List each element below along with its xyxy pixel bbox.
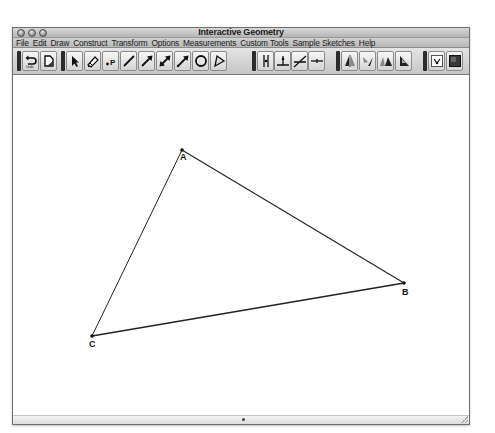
midpoint-icon — [310, 54, 324, 68]
bisector-tool[interactable] — [291, 51, 308, 71]
undo-icon: Undo — [24, 54, 38, 68]
fill-icon — [448, 54, 462, 68]
segment-ab[interactable] — [182, 150, 404, 283]
point-label-c[interactable]: C — [89, 339, 96, 349]
translate-icon — [379, 54, 393, 68]
toolbar: Undo P — [13, 48, 469, 75]
translate-tool[interactable] — [377, 51, 394, 71]
segment-icon — [122, 54, 136, 68]
menu-bar: File Edit Draw Construct Transform Optio… — [13, 38, 469, 48]
fill-tool[interactable] — [446, 51, 463, 71]
label-tool[interactable] — [428, 51, 445, 71]
vector-tool[interactable] — [174, 51, 191, 71]
svg-text:Undo: Undo — [26, 65, 34, 69]
perpendicular-tool[interactable] — [274, 51, 291, 71]
menu-options[interactable]: Options — [152, 38, 180, 48]
title-bar[interactable]: Interactive Geometry — [13, 28, 469, 38]
line-icon — [158, 54, 172, 68]
polygon-icon — [212, 54, 226, 68]
parallel-icon — [259, 54, 273, 68]
dilate-tool[interactable] — [395, 51, 412, 71]
select-tool[interactable] — [66, 51, 83, 71]
menu-edit[interactable]: Edit — [33, 38, 47, 48]
point-label-a[interactable]: A — [180, 152, 187, 162]
ray-tool[interactable] — [138, 51, 155, 71]
window-title: Interactive Geometry — [13, 27, 469, 37]
menu-help[interactable]: Help — [359, 38, 375, 48]
vector-icon — [176, 54, 190, 68]
segment-bc[interactable] — [92, 283, 404, 336]
point-icon: P — [104, 54, 118, 68]
eraser-tool[interactable] — [84, 51, 101, 71]
svg-text:P: P — [110, 58, 116, 67]
ray-icon — [140, 54, 154, 68]
menu-draw[interactable]: Draw — [50, 38, 69, 48]
perpendicular-icon — [276, 54, 290, 68]
midpoint-tool[interactable] — [308, 51, 325, 71]
parallel-tool[interactable] — [257, 51, 274, 71]
toolbar-group-handle[interactable] — [423, 51, 427, 71]
point-tool[interactable]: P — [102, 51, 119, 71]
segment-ca[interactable] — [92, 150, 182, 336]
status-indicator — [242, 418, 245, 421]
pencil-eraser-icon — [86, 54, 100, 68]
menu-transform[interactable]: Transform — [111, 38, 147, 48]
point-label-b[interactable]: B — [402, 287, 409, 297]
point-b[interactable] — [402, 281, 406, 285]
document-icon — [42, 54, 56, 68]
bisector-icon — [293, 54, 307, 68]
redo-button[interactable] — [40, 51, 57, 71]
toolbar-group-handle[interactable] — [61, 51, 65, 71]
toolbar-group-handle[interactable] — [252, 51, 256, 71]
reflect-icon — [343, 54, 357, 68]
reflect-tool[interactable] — [341, 51, 358, 71]
dilate-icon — [397, 54, 411, 68]
rotate-tool[interactable] — [359, 51, 376, 71]
polygon-tool[interactable] — [210, 51, 227, 71]
menu-sample-sketches[interactable]: Sample Sketches — [293, 38, 355, 48]
line-tool[interactable] — [156, 51, 173, 71]
app-window: Interactive Geometry File Edit Draw Cons… — [12, 27, 470, 425]
point-c[interactable] — [90, 334, 94, 338]
circle-icon — [194, 54, 208, 68]
status-bar — [13, 415, 469, 424]
menu-custom-tools[interactable]: Custom Tools — [240, 38, 288, 48]
toolbar-group-handle[interactable] — [336, 51, 340, 71]
triangle-sketch — [13, 76, 469, 416]
arrow-pointer-icon — [68, 54, 82, 68]
menu-measurements[interactable]: Measurements — [183, 38, 236, 48]
rotate-icon — [361, 54, 375, 68]
label-icon — [430, 54, 444, 68]
segment-tool[interactable] — [120, 51, 137, 71]
resize-grip-icon[interactable] — [461, 416, 468, 423]
toolbar-group-handle[interactable] — [17, 51, 21, 71]
undo-button[interactable]: Undo — [22, 51, 39, 71]
circle-tool[interactable] — [192, 51, 209, 71]
menu-construct[interactable]: Construct — [73, 38, 107, 48]
menu-file[interactable]: File — [16, 38, 29, 48]
sketch-canvas[interactable]: A B C — [13, 76, 469, 416]
